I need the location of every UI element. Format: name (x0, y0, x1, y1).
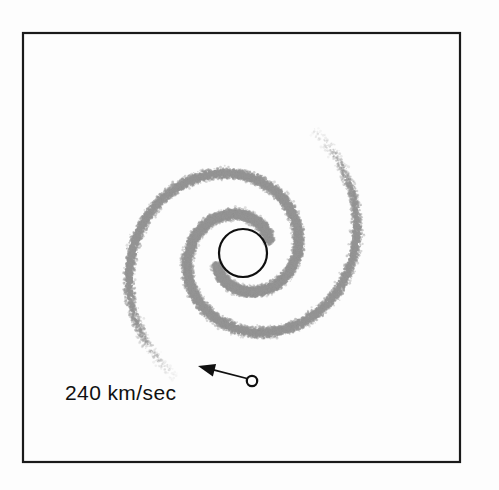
velocity-label: 240 km/sec (65, 381, 176, 404)
spiral-galaxy-diagram: 240 km/sec (0, 0, 499, 490)
figure-background (0, 0, 499, 490)
figure-root: 240 km/sec (0, 0, 499, 490)
sun-position-marker (247, 376, 257, 386)
